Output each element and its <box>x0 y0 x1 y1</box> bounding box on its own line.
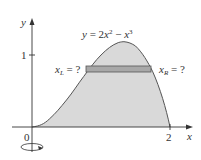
volume-diagram: y x 1 2 0 y = 2x2 − x3 xL = ? xR = ? <box>0 0 201 160</box>
x-right-label: xR = ? <box>158 63 185 77</box>
x-axis-label: x <box>186 130 192 142</box>
equation-label: y = 2x2 − x3 <box>81 28 133 40</box>
x-tick-label: 2 <box>166 131 172 143</box>
y-axis-label: y <box>20 16 26 28</box>
x-axis-arrow-icon <box>186 125 193 130</box>
y-tick-label: 1 <box>21 49 27 61</box>
horizontal-strip <box>86 66 151 72</box>
x-left-label: xL = ? <box>54 63 81 77</box>
y-axis-arrow-icon <box>30 18 35 25</box>
origin-label: 0 <box>24 131 30 143</box>
